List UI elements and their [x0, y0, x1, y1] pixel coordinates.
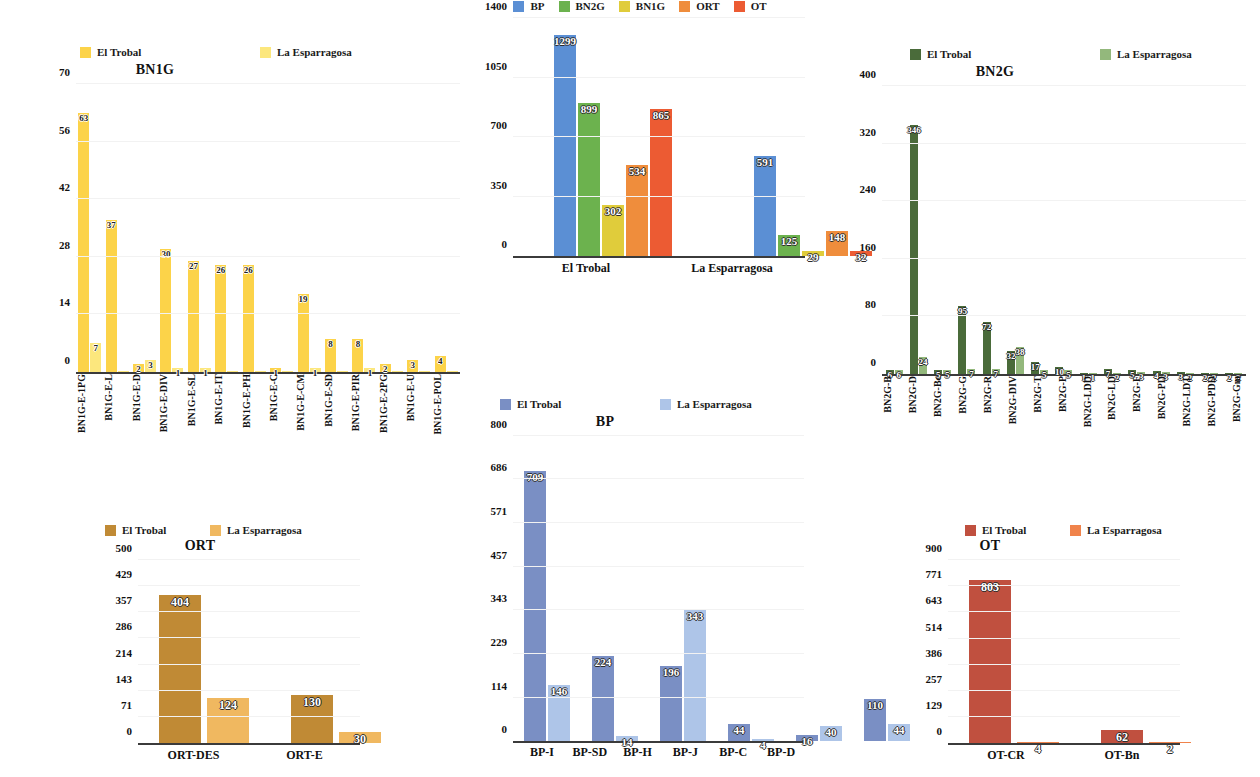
- bar-value-label: 224: [595, 657, 612, 668]
- bar[interactable]: 24: [919, 357, 927, 374]
- bar[interactable]: 32: [1007, 351, 1015, 374]
- bar[interactable]: 1: [310, 368, 321, 372]
- bar[interactable]: 2: [1225, 373, 1233, 374]
- bar[interactable]: 1: [172, 368, 183, 372]
- bar[interactable]: 404: [159, 595, 201, 743]
- bar[interactable]: 26: [243, 265, 254, 372]
- bar[interactable]: 17: [1031, 362, 1039, 374]
- bar[interactable]: 1: [1080, 373, 1088, 374]
- bar[interactable]: 16: [796, 735, 818, 741]
- plot-area-overview: 12998993025348655911252914832: [513, 18, 805, 258]
- bar[interactable]: 6: [886, 370, 894, 374]
- bar[interactable]: 7: [90, 343, 101, 372]
- bar[interactable]: 224: [592, 656, 614, 741]
- bar[interactable]: 2: [133, 364, 144, 372]
- bar[interactable]: 72: [983, 322, 991, 374]
- bar[interactable]: 591: [754, 156, 776, 256]
- bar[interactable]: 2: [1234, 373, 1242, 374]
- bar[interactable]: 5: [1128, 370, 1136, 374]
- bar[interactable]: 3: [407, 360, 418, 372]
- bar[interactable]: 5: [1040, 370, 1048, 374]
- bar[interactable]: [227, 371, 238, 372]
- x-tick-label: El Trobal: [513, 261, 659, 276]
- bar[interactable]: 5: [934, 370, 942, 374]
- bar[interactable]: 27: [188, 261, 199, 372]
- bar[interactable]: 803: [969, 580, 1011, 743]
- bar[interactable]: 8: [352, 339, 363, 372]
- bar[interactable]: 7: [1104, 369, 1112, 374]
- bar[interactable]: 4: [1017, 742, 1059, 743]
- bar[interactable]: 534: [626, 165, 648, 256]
- bar[interactable]: 4: [1153, 371, 1161, 374]
- legend-swatch-la-esparragosa-icon: [660, 399, 671, 410]
- bar[interactable]: 62: [1101, 730, 1143, 743]
- bar[interactable]: 7: [967, 369, 975, 374]
- bar-value-label: 29: [808, 252, 819, 263]
- bar[interactable]: 4: [752, 739, 774, 741]
- bar[interactable]: 44: [728, 724, 750, 741]
- gridline: [948, 664, 1180, 665]
- bar[interactable]: 38: [1016, 347, 1024, 374]
- bar[interactable]: [337, 371, 348, 372]
- bar[interactable]: 343: [684, 610, 706, 741]
- bar[interactable]: 709: [524, 471, 546, 741]
- bar[interactable]: 3: [145, 360, 156, 372]
- gridline: [882, 200, 1246, 201]
- bar[interactable]: 899: [578, 103, 600, 256]
- gridline: [138, 611, 360, 612]
- bar[interactable]: 2: [1210, 373, 1218, 374]
- bar[interactable]: 1: [1089, 373, 1097, 374]
- bar[interactable]: 7: [992, 369, 1000, 374]
- legend-label-la-esparragosa: La Esparragosa: [1117, 48, 1192, 60]
- bar[interactable]: 125: [778, 235, 800, 256]
- legend-label-la-esparragosa: La Esparragosa: [277, 46, 352, 58]
- bar[interactable]: 2: [1186, 373, 1194, 374]
- bar[interactable]: [392, 371, 403, 372]
- bar[interactable]: 865: [650, 109, 672, 256]
- legend-entry-la-esparragosa: La Esparragosa: [660, 398, 752, 410]
- bar[interactable]: 2: [1201, 373, 1209, 374]
- bar[interactable]: [282, 371, 293, 372]
- bar[interactable]: 30: [160, 249, 171, 372]
- bar[interactable]: 3: [1137, 372, 1145, 374]
- bar-value-label: 27: [189, 262, 198, 271]
- bar[interactable]: 2: [1149, 742, 1191, 743]
- bar[interactable]: 3: [1177, 372, 1185, 374]
- bar[interactable]: 4: [435, 356, 446, 372]
- bar[interactable]: 26: [215, 265, 226, 372]
- gridline: [138, 664, 360, 665]
- bar[interactable]: 19: [298, 294, 309, 372]
- bar[interactable]: 30: [339, 732, 381, 743]
- bar[interactable]: 29: [802, 251, 824, 256]
- bar[interactable]: 346: [910, 125, 918, 374]
- bar[interactable]: 1: [200, 368, 211, 372]
- bar-group-overview: 12998993025348655911252914832: [513, 18, 805, 256]
- bar-value-label: 44: [734, 725, 745, 736]
- bar[interactable]: 124: [207, 698, 249, 743]
- bar[interactable]: 2: [1113, 373, 1121, 374]
- bar[interactable]: 130: [291, 695, 333, 743]
- bar[interactable]: 1: [364, 368, 375, 372]
- bar[interactable]: 6: [895, 370, 903, 374]
- bar[interactable]: 63: [78, 113, 89, 372]
- bar[interactable]: 302: [602, 205, 624, 256]
- bar[interactable]: 1299: [554, 35, 576, 256]
- bar[interactable]: 3: [1162, 372, 1170, 374]
- x-axis-labels-ot: OT-CROT-Bn: [948, 748, 1180, 763]
- y-tick-label: 900: [926, 542, 943, 554]
- bar[interactable]: [118, 371, 129, 372]
- bar[interactable]: [419, 371, 430, 372]
- bar[interactable]: 40: [820, 726, 842, 741]
- bar[interactable]: 5: [943, 370, 951, 374]
- bar[interactable]: 8: [325, 339, 336, 372]
- bar[interactable]: 14: [616, 736, 638, 741]
- bar[interactable]: [447, 371, 458, 372]
- bar[interactable]: [255, 371, 266, 372]
- bar[interactable]: 2: [380, 364, 391, 372]
- bar[interactable]: 37: [106, 220, 117, 372]
- bar[interactable]: 146: [548, 685, 570, 741]
- bar[interactable]: 5: [1064, 370, 1072, 374]
- bar[interactable]: 10: [1055, 367, 1063, 374]
- bar[interactable]: 196: [660, 666, 682, 741]
- bar[interactable]: 1: [270, 368, 281, 372]
